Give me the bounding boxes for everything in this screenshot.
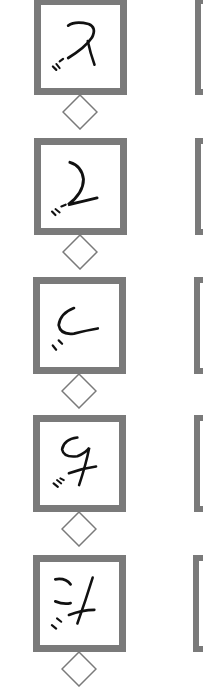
diamond-icon [62, 234, 98, 270]
character-tile-col2-2[interactable] [195, 138, 203, 235]
diamond-connector-2[interactable]: connector 2 [62, 234, 98, 270]
character-tile-3[interactable]: Handwritten glyph 3 [33, 277, 126, 374]
diamond-connector-4[interactable]: connector 4 [61, 511, 97, 547]
character-tile-2[interactable]: Handwritten glyph 2 [34, 138, 127, 235]
diamond-icon [61, 373, 97, 409]
diamond-icon [61, 511, 97, 547]
handwriting-stroke-icon [40, 562, 119, 645]
diamond-connector-1[interactable]: connector 1 [62, 94, 98, 130]
diamond-connector-3[interactable]: connector 3 [61, 373, 97, 409]
character-tile-col2-5[interactable] [193, 555, 203, 652]
character-tile-col2-1[interactable] [195, 0, 203, 95]
diamond-icon [61, 651, 97, 687]
diamond-icon [62, 94, 98, 130]
character-tile-4[interactable]: Handwritten glyph 4 [33, 415, 126, 512]
handwriting-stroke-icon [40, 284, 119, 367]
diamond-connector-5[interactable]: connector 5 [61, 651, 97, 687]
handwriting-stroke-icon [41, 145, 120, 228]
character-tile-5[interactable]: Handwritten glyph 5 [33, 555, 126, 652]
character-tile-col2-3[interactable] [194, 277, 203, 374]
character-tile-1[interactable]: Handwritten glyph 1 [34, 0, 127, 95]
character-tile-col2-4[interactable] [194, 415, 203, 512]
handwriting-stroke-icon [40, 422, 119, 505]
handwriting-stroke-icon [41, 5, 120, 88]
